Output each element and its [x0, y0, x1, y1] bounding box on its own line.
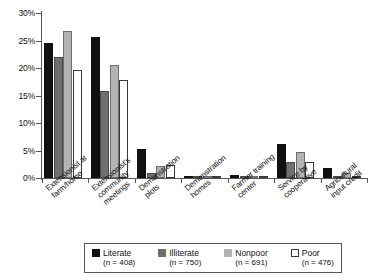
bar-group: [323, 13, 361, 178]
y-tick: [36, 96, 42, 97]
y-tick-label: 0%: [23, 174, 35, 182]
legend-swatch-icon: [224, 249, 232, 257]
chart-legend: Literate(n = 408)Illiterate(n = 750)Nonp…: [84, 243, 342, 273]
y-tick-label: 15%: [19, 92, 35, 100]
legend-series-count: (n = 691): [235, 258, 268, 268]
y-tick-label: 25%: [19, 37, 35, 45]
legend-series-count: (n = 476): [302, 258, 334, 268]
bar: [230, 175, 239, 178]
bar: [44, 43, 53, 178]
y-tick-label: 30%: [19, 9, 35, 17]
legend-series-name: Poor: [302, 248, 334, 258]
y-tick: [36, 151, 42, 152]
x-tick: [181, 178, 182, 183]
legend-item[interactable]: Illiterate(n = 750): [158, 248, 201, 268]
bar: [54, 57, 63, 178]
y-tick: [36, 41, 42, 42]
plot-area: 0%5%10%15%20%25%30%: [42, 13, 367, 178]
x-tick: [274, 178, 275, 183]
y-tick-label: 20%: [19, 64, 35, 72]
legend-series-name: Nonpoor: [235, 248, 268, 258]
y-tick: [36, 68, 42, 69]
y-tick-label: 5%: [23, 147, 35, 155]
bar-group: [277, 13, 315, 178]
bar-group: [230, 13, 268, 178]
legend-item[interactable]: Nonpoor(n = 691): [224, 248, 268, 268]
legend-swatch-icon: [92, 249, 100, 257]
x-tick: [228, 178, 229, 183]
y-tick: [36, 13, 42, 14]
x-tick: [367, 178, 368, 183]
legend-item[interactable]: Poor(n = 476): [291, 248, 334, 268]
y-tick-label: 10%: [19, 119, 35, 127]
bar-chart: 0%5%10%15%20%25%30% Extensionist at farm…: [0, 0, 377, 280]
bar: [110, 65, 119, 178]
legend-series-name: Literate: [103, 248, 135, 258]
legend-item[interactable]: Literate(n = 408): [92, 248, 135, 268]
y-tick: [36, 123, 42, 124]
x-tick: [42, 178, 43, 183]
legend-series-count: (n = 750): [169, 258, 201, 268]
bar-group: [137, 13, 175, 178]
legend-series-count: (n = 408): [103, 258, 135, 268]
x-tick: [321, 178, 322, 183]
legend-swatch-icon: [158, 249, 166, 257]
bar: [63, 31, 72, 178]
bar-group: [91, 13, 129, 178]
bar-group: [44, 13, 82, 178]
legend-swatch-icon: [291, 249, 299, 257]
legend-series-name: Illiterate: [169, 248, 201, 258]
bar-group: [184, 13, 222, 178]
bar: [100, 91, 109, 178]
bar: [323, 168, 332, 178]
bar: [91, 37, 100, 178]
x-tick: [88, 178, 89, 183]
